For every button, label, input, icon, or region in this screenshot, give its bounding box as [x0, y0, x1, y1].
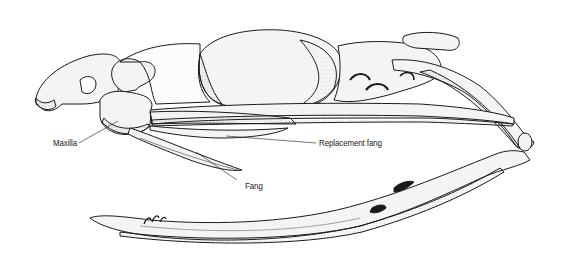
label-replacement-fang: Replacement fang	[319, 138, 382, 148]
label-fang: Fang	[245, 181, 263, 191]
label-maxilla: Maxilla	[53, 138, 77, 148]
snake-skull-illustration	[0, 0, 574, 266]
replacement-fang	[150, 126, 288, 138]
